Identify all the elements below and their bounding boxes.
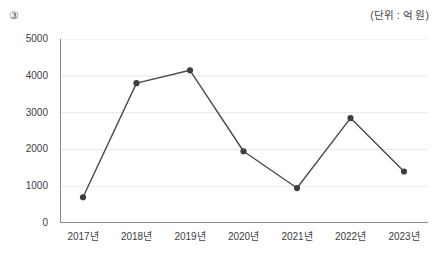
- y-tick-label: 2000: [26, 144, 48, 154]
- x-tick-label: 2018년: [121, 231, 152, 243]
- unit-label: (단위 : 억 원): [370, 9, 429, 21]
- data-point-markers: [80, 67, 407, 200]
- y-tick-label: 3000: [26, 108, 48, 118]
- data-point-marker: [240, 148, 246, 154]
- axis-lines: [60, 39, 428, 223]
- x-tick-label: 2022년: [335, 231, 366, 243]
- data-point-marker: [187, 67, 193, 73]
- gridlines: [60, 39, 428, 186]
- data-point-marker: [347, 115, 353, 121]
- y-tick-label: 0: [42, 218, 48, 228]
- x-tick-label: 2020년: [228, 231, 259, 243]
- y-tick-label: 5000: [26, 34, 48, 44]
- data-point-marker: [133, 80, 139, 86]
- x-tick-label: 2019년: [174, 231, 205, 243]
- data-point-marker: [80, 194, 86, 200]
- x-axis: 2017년2018년2019년2020년2021년2022년2023년: [60, 231, 428, 249]
- data-point-marker: [294, 185, 300, 191]
- y-axis: 010002000300040005000: [0, 39, 55, 223]
- y-tick-label: 1000: [26, 181, 48, 191]
- plot-area: [60, 39, 428, 223]
- x-tick-label: 2021년: [281, 231, 312, 243]
- x-tick-label: 2017년: [67, 231, 98, 243]
- x-tick-label: 2023년: [388, 231, 419, 243]
- item-number-label: ③: [9, 9, 19, 21]
- y-tick-label: 4000: [26, 71, 48, 81]
- series-line: [83, 70, 404, 197]
- line-chart-svg: [60, 39, 428, 223]
- data-point-marker: [401, 168, 407, 174]
- chart-figure: ③ (단위 : 억 원) 010002000300040005000 2017년…: [0, 0, 439, 255]
